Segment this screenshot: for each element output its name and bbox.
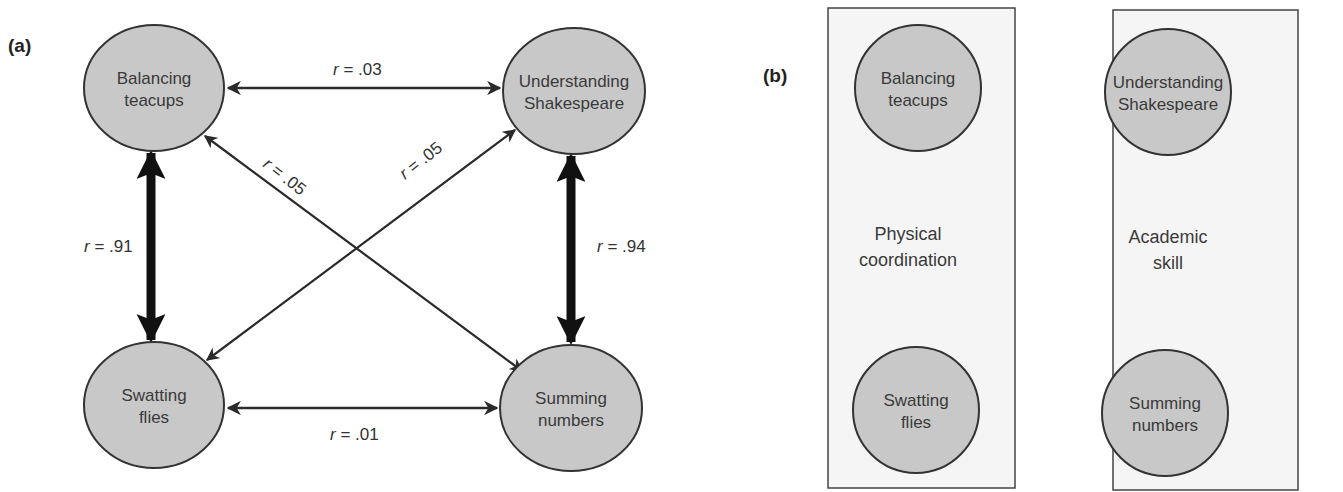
factor-box-academic-skill: Understanding Shakespeare Academic skill… [1102,10,1298,490]
svg-text:Balancing: Balancing [117,69,192,88]
node-b-summing-numbers [1102,350,1228,476]
svg-text:numbers: numbers [1132,416,1198,435]
svg-text:skill: skill [1153,253,1183,273]
factor-label-physical: Physical [874,224,941,244]
node-b-balancing-teacups [855,25,981,151]
node-b-swatting-flies [853,347,979,473]
svg-text:Balancing: Balancing [881,69,956,88]
svg-text:Shakespeare: Shakespeare [524,94,624,113]
svg-text:Swatting: Swatting [883,391,948,410]
node-b-understanding-shakespeare [1105,29,1231,155]
node-balancing-teacups: Balancing teacups [84,25,224,151]
svg-text:teacups: teacups [124,91,184,110]
r-label-diag-down: r = .05 [260,154,310,199]
r-label-top: r = .03 [333,60,382,79]
r-label-diag-up: r = .05 [396,138,446,183]
figure-canvas: (a) Balancing teacups Understanding Shak… [0,0,1343,492]
svg-text:Summing: Summing [535,389,607,408]
node-summing-numbers: Summing numbers [500,345,642,471]
factor-box-physical-coordination: Balancing teacups Physical coordination … [828,8,1015,488]
panel-a-label: (a) [8,35,31,56]
svg-text:teacups: teacups [888,91,948,110]
svg-text:flies: flies [901,413,931,432]
svg-text:Swatting: Swatting [121,386,186,405]
r-label-bottom: r = .01 [330,425,379,444]
node-swatting-flies: Swatting flies [84,342,224,468]
panel-b-label: (b) [763,65,787,86]
svg-text:Shakespeare: Shakespeare [1118,95,1218,114]
factor-label-academic: Academic [1128,227,1207,247]
r-label-right: r = .94 [597,237,646,256]
svg-text:numbers: numbers [538,411,604,430]
edge-swatting-understanding [207,130,515,360]
svg-text:Summing: Summing [1129,394,1201,413]
node-understanding-shakespeare: Understanding Shakespeare [503,28,645,154]
svg-text:Understanding: Understanding [1113,73,1224,92]
edge-balancing-summing [205,136,522,371]
svg-text:Understanding: Understanding [519,72,630,91]
svg-text:flies: flies [139,408,169,427]
svg-text:coordination: coordination [859,250,957,270]
r-label-left: r = .91 [84,237,133,256]
